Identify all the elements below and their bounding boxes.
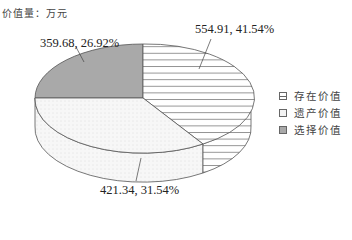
dotted-swatch-icon (279, 109, 287, 117)
legend-label: 存在价值 (294, 88, 342, 103)
legend-item-bequest: 遗产价值 (279, 104, 342, 121)
legend-label: 选择价值 (294, 122, 342, 137)
legend-item-existence: 存在价值 (279, 87, 342, 104)
legend-item-option: 选择价值 (279, 121, 342, 138)
data-label-option: 359.68, 26.92% (40, 36, 119, 51)
hatch-swatch-icon (279, 92, 287, 100)
legend-label: 遗产价值 (294, 105, 342, 120)
data-label-bequest: 421.34, 31.54% (100, 183, 179, 198)
data-label-existence: 554.91, 41.54% (195, 22, 274, 37)
legend: 存在价值 遗产价值 选择价值 (279, 87, 342, 138)
slice-option (35, 44, 143, 98)
solid-swatch-icon (279, 126, 287, 134)
